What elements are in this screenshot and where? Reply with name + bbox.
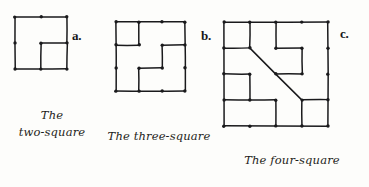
lattice-dot	[274, 47, 277, 50]
caption-two-square: The two-square	[4, 107, 100, 140]
lattice-dot	[39, 42, 42, 45]
lattice-dot	[13, 41, 16, 44]
lattice-dot	[114, 43, 117, 46]
lattice-dot	[161, 43, 164, 46]
lattice-dot	[300, 124, 303, 127]
lattice-dot	[274, 20, 277, 23]
caption-line: The three-square	[100, 128, 218, 145]
lattice-dot	[137, 67, 140, 70]
lattice-dot	[248, 73, 251, 76]
lattice-dot	[248, 125, 251, 128]
lattice-dot	[65, 41, 68, 44]
lattice-dot	[326, 124, 329, 127]
lattice-dot	[65, 67, 68, 70]
lattice-dot	[300, 20, 303, 23]
lattice-dot	[222, 72, 225, 75]
lattice-dot	[114, 89, 117, 92]
lattice-dot	[222, 20, 225, 23]
caption-line: two-square	[4, 124, 100, 141]
lattice-dot	[326, 20, 329, 23]
caption-line: The four-square	[218, 152, 366, 169]
lattice-dot	[300, 72, 303, 75]
lattice-dot	[222, 125, 225, 128]
caption-three-square: The three-square	[100, 128, 218, 145]
lattice-dot	[248, 98, 251, 101]
figure-label-b: b.	[201, 28, 211, 44]
figure-edge	[185, 22, 186, 90]
lattice-dot	[222, 98, 225, 101]
lattice-dot	[40, 15, 43, 18]
lattice-dot	[274, 72, 277, 75]
lattice-dot	[222, 46, 225, 49]
figure-label-c: c.	[340, 26, 349, 42]
lattice-dot	[114, 20, 117, 23]
lattice-dot	[300, 47, 303, 50]
figure-two-square	[13, 15, 69, 71]
figure-edge	[67, 43, 68, 69]
lattice-dot	[248, 46, 251, 49]
lattice-dot	[39, 67, 42, 70]
caption-line: The	[4, 107, 100, 124]
lattice-dot	[137, 21, 140, 24]
figure-edge	[139, 68, 162, 69]
lattice-dot	[183, 43, 186, 46]
lattice-dot	[183, 21, 186, 24]
illustration-plate: a. b. c. The two-square The three-square…	[0, 0, 369, 187]
lattice-dot	[137, 89, 140, 92]
lattice-dot	[114, 66, 117, 69]
lattice-dot	[183, 66, 186, 69]
figure-three-square	[114, 20, 187, 93]
lattice-dot	[65, 15, 68, 18]
figure-label-a: a.	[72, 28, 81, 44]
lattice-dot	[326, 98, 329, 101]
lattice-dot	[248, 21, 251, 24]
figure-four-square	[222, 20, 330, 128]
lattice-dot	[183, 89, 186, 92]
lattice-dot	[138, 43, 141, 46]
figure-edge	[162, 45, 185, 46]
lattice-dot	[13, 15, 16, 18]
lattice-dot	[161, 66, 164, 69]
lattice-dot	[274, 99, 277, 102]
lattice-dot	[160, 20, 163, 23]
lattice-dot	[13, 67, 16, 70]
lattice-dot	[300, 98, 303, 101]
lattice-dot	[326, 72, 329, 75]
lattice-dot	[326, 47, 329, 50]
lattice-dot	[274, 124, 277, 127]
caption-four-square: The four-square	[218, 152, 366, 169]
lattice-dot	[160, 89, 163, 92]
